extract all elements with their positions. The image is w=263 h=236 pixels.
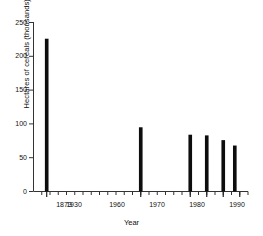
bar-1970 [205, 135, 209, 191]
bar-1987 [233, 146, 237, 192]
x-axis-major-ticks [47, 192, 240, 198]
bar-1873 [45, 39, 49, 192]
bar-1980 [221, 140, 225, 191]
plot-area [0, 0, 263, 236]
x-axis-minor-ticks [42, 192, 248, 196]
bar-1930 [139, 127, 143, 191]
bar-chart: Hectares of cereals (thousands) Year 250… [0, 0, 263, 236]
y-axis-major-ticks [29, 23, 34, 192]
bar-series [45, 39, 237, 192]
bar-1960 [188, 135, 192, 192]
